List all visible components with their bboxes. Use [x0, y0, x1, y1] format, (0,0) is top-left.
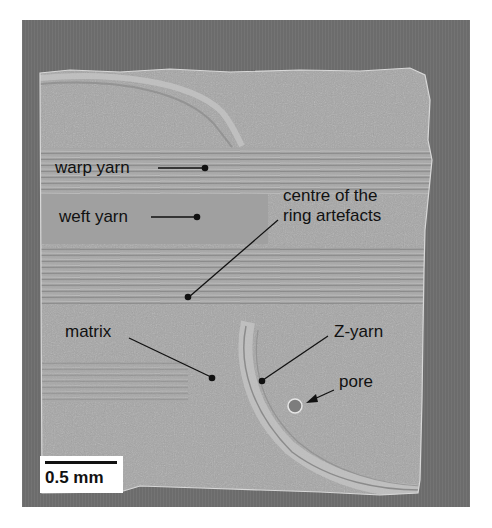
specimen-scene: [0, 0, 492, 528]
fibre-streaks: [38, 362, 188, 402]
ring-centre-marker: [185, 294, 192, 301]
matrix-marker: [209, 375, 216, 382]
label-matrix: matrix: [65, 322, 111, 341]
label-ring-centre-line1: centre of the: [283, 186, 378, 205]
warp-yarn-marker: [202, 165, 209, 172]
scale-bar-label: 0.5 mm: [45, 468, 104, 488]
specimen: [38, 66, 434, 498]
label-weft-yarn: weft yarn: [59, 207, 128, 226]
label-pore: pore: [339, 372, 373, 391]
label-z-yarn: Z-yarn: [334, 322, 383, 341]
pore-feature: [288, 399, 302, 413]
z-yarn-marker: [259, 378, 266, 385]
label-warp-yarn: warp yarn: [55, 158, 130, 177]
scale-bar-line: [45, 461, 117, 464]
scale-bar-box: 0.5 mm: [40, 456, 123, 493]
label-ring-centre-line2: ring artefacts: [283, 206, 381, 225]
weft-yarn-marker: [194, 214, 201, 221]
